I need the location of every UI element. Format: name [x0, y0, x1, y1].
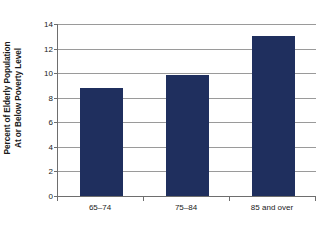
bar-75-84	[166, 75, 209, 196]
x-tick-mark-2	[229, 197, 230, 201]
y-axis-title-line-2: At or Below Poverty Level	[13, 48, 24, 148]
x-tick-mark-0	[57, 197, 58, 201]
y-tick-label-14: 14	[28, 20, 53, 29]
y-axis-tick-labels: 0 2 4 6 8 10 12 14	[28, 0, 53, 229]
x-tick-label-65-74: 65–74	[89, 203, 111, 212]
bar-65-74	[80, 88, 123, 196]
y-tick-label-0: 0	[28, 192, 53, 201]
plot-area	[57, 24, 316, 197]
x-tick-mark-3	[315, 197, 316, 201]
bar-85-and-over	[252, 36, 295, 196]
bar-chart: Percent of Elderly Population At or Belo…	[0, 0, 331, 229]
y-axis-title-line-1: Percent of Elderly Population	[2, 42, 13, 155]
x-tick-mark-1	[143, 197, 144, 201]
y-tick-label-4: 4	[28, 142, 53, 151]
y-axis-title: Percent of Elderly Population At or Belo…	[0, 0, 26, 196]
bar-series	[58, 24, 316, 196]
y-tick-label-10: 10	[28, 69, 53, 78]
x-tick-label-85-and-over: 85 and over	[251, 203, 293, 212]
x-axis-tick-labels: 65–74 75–84 85 and over	[57, 203, 315, 219]
y-tick-label-6: 6	[28, 118, 53, 127]
x-tick-label-75-84: 75–84	[175, 203, 197, 212]
x-axis-tick-marks	[57, 197, 316, 202]
y-tick-label-8: 8	[28, 93, 53, 102]
y-tick-label-2: 2	[28, 167, 53, 176]
y-tick-label-12: 12	[28, 44, 53, 53]
